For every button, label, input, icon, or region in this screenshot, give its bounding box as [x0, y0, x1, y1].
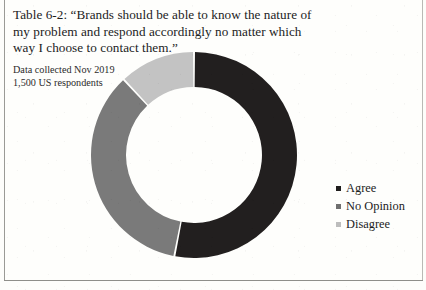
legend-swatch-agree — [336, 186, 341, 191]
donut-slice-agree — [175, 52, 297, 258]
donut-chart-svg — [88, 49, 300, 261]
legend-item-agree: Agree — [336, 179, 422, 197]
figure-page: Table 6-2: “Brands should be able to kno… — [0, 0, 426, 290]
legend-label-disagree: Disagree — [346, 218, 390, 230]
chart-legend: Agree No Opinion Disagree — [336, 179, 422, 233]
legend-label-agree: Agree — [346, 182, 376, 194]
legend-label-no-opinion: No Opinion — [346, 200, 405, 212]
page-border-bottom — [4, 280, 423, 281]
donut-chart — [88, 49, 300, 261]
donut-slice-no-opinion — [91, 80, 180, 256]
donut-slice-group — [91, 52, 297, 258]
legend-item-no-opinion: No Opinion — [336, 197, 422, 215]
page-border-left — [4, 0, 5, 281]
legend-swatch-disagree — [336, 222, 341, 227]
legend-swatch-no-opinion — [336, 204, 341, 209]
page-border-right — [422, 0, 423, 281]
legend-item-disagree: Disagree — [336, 215, 422, 233]
